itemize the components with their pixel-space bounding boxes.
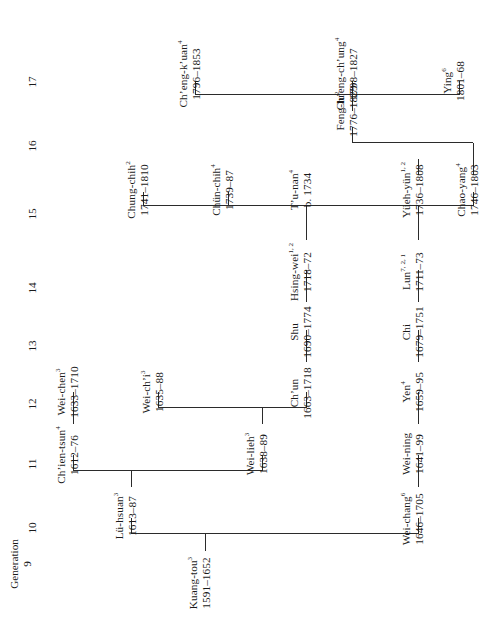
person-name-superscript: 3 (139, 370, 147, 374)
person-name-superscript: 4 (333, 38, 341, 42)
person-node-kuang-tou[interactable]: Kuang-tou3 1591–1652 (187, 550, 212, 616)
person-dates: 1638–89 (257, 424, 270, 484)
generation-number-15: 15 (26, 184, 39, 244)
person-dates: 1612–76 (68, 421, 81, 489)
person-node-wei-ning[interactable]: Wei-ning 1641–99 (400, 424, 425, 484)
person-node-lun[interactable]: Lun7, 2, 1 1711–73 (400, 240, 425, 304)
person-name-superscript: 1, 2 (287, 243, 295, 254)
person-dates: 1739–87 (223, 156, 236, 224)
generation-number-14: 14 (26, 258, 39, 318)
person-dates: 1718–72 (301, 238, 314, 306)
person-name: Chao-yang4 (455, 154, 468, 226)
edge-luhsuan-bus (73, 470, 262, 471)
person-node-chao-yang[interactable]: Chao-yang4 1746–1803 (455, 154, 480, 226)
person-name: T’u-nan4 (288, 158, 301, 222)
person-node-chun-chih[interactable]: Chün-chih4 1739–87 (210, 156, 235, 224)
generation-number-12-label: 12 (26, 374, 39, 434)
person-node-wei-chen[interactable]: Wei-chen3 1633–1710 (55, 358, 80, 426)
person-dates: 1641–99 (413, 424, 426, 484)
person-node-chung-chih[interactable]: Chung-chih2 1741–1810 (125, 154, 150, 226)
person-dates: 1736–1808 (413, 154, 426, 226)
person-dates: 1796–1853 (190, 32, 203, 116)
person-name: Ch’eng-ch’ung4 (334, 30, 347, 118)
person-dates: 1659–95 (413, 362, 426, 422)
person-name: Lü-hsuan3 (113, 486, 126, 546)
person-name-superscript: 7, 2, 1 (399, 254, 407, 272)
person-dates: 1646–1705 (413, 484, 426, 554)
person-name-superscript: 3 (243, 433, 251, 437)
person-node-cheng-chung[interactable]: Ch’eng-ch’ung4 1798–1827 (334, 30, 359, 118)
generation-number-13-label: 13 (26, 316, 39, 376)
person-name: Yen4 (400, 362, 413, 422)
person-name-superscript: 4 (209, 164, 217, 168)
generation-number-15-label: 15 (26, 184, 39, 244)
person-dates: b. 1734 (301, 158, 314, 222)
person-name: Wei-lieh3 (244, 424, 257, 484)
person-name: Hsing-wei1, 2 (288, 238, 301, 306)
person-node-chien-tsun[interactable]: Ch’ien-tsun4 1612–76 (55, 421, 80, 489)
person-node-chun[interactable]: Ch’un 1663–1718 (288, 360, 313, 426)
generation-number-10: 10 (26, 498, 39, 558)
person-node-lu-hsuan[interactable]: Lü-hsuan3 1613–87 (113, 486, 138, 546)
person-name: Chi (400, 300, 413, 364)
generation-number-17-label: 17 (26, 52, 39, 112)
person-name: Ch’eng-k’uan4 (177, 32, 190, 116)
person-dates: 1635–88 (153, 362, 166, 422)
edge-luhsuan-stem (131, 471, 132, 487)
person-node-cheng-kuan[interactable]: Ch’eng-k’uan4 1796–1853 (177, 32, 202, 116)
person-dates: 1801–68 (454, 50, 467, 112)
person-name: Wei-chang6 (400, 484, 413, 554)
person-node-yueh-yun[interactable]: Yüeh-yün1, 2 1736–1808 (400, 154, 425, 226)
person-node-wei-chi[interactable]: Wei-ch’i3 1635–88 (140, 362, 165, 422)
edge-chaoyang-riser (352, 142, 473, 143)
person-name-superscript: 6 (399, 493, 407, 497)
edge-kuangtou-bus (131, 533, 418, 534)
person-dates: 1679–1751 (413, 300, 426, 364)
generation-number-16: 16 (26, 116, 39, 176)
person-name: Ch’un (288, 360, 301, 426)
person-name: Yüeh-yün1, 2 (400, 154, 413, 226)
person-dates: 1741–1810 (138, 154, 151, 226)
person-node-shu[interactable]: Shu 1690–1774 (288, 300, 313, 364)
person-node-wei-lieh[interactable]: Wei-lieh3 1638–89 (244, 424, 269, 484)
edge-weilieh-stem (262, 408, 263, 424)
edge-fenglu-bus (195, 94, 459, 95)
person-name-superscript: 1, 2 (399, 162, 407, 173)
person-name: Lun7, 2, 1 (400, 240, 413, 304)
person-name: Chung-chih2 (125, 154, 138, 226)
generation-header-word: Generation (8, 522, 21, 606)
generation-number-12: 12 (26, 374, 39, 434)
person-dates: 1690–1774 (301, 300, 314, 364)
person-name-superscript: 3 (186, 557, 194, 561)
person-name-superscript: 4 (399, 381, 407, 385)
edge-weilieh-bus (158, 407, 306, 408)
person-name: Shu (288, 300, 301, 364)
person-name-superscript: 4 (54, 426, 62, 430)
person-name-superscript: 4 (454, 163, 462, 167)
person-dates: 1613–87 (126, 486, 139, 546)
person-dates: 1746–1803 (468, 154, 480, 226)
person-node-yen[interactable]: Yen4 1659–95 (400, 362, 425, 422)
person-node-chi[interactable]: Chi 1679–1751 (400, 300, 425, 364)
person-name: Wei-ning (400, 424, 413, 484)
generation-number-10-label: 10 (26, 498, 39, 558)
edge-kuangtou-stem (205, 534, 206, 551)
person-node-tu-nan[interactable]: T’u-nan4 b. 1734 (288, 158, 313, 222)
person-node-ying[interactable]: Ying6 1801–68 (441, 50, 466, 112)
generation-number-13: 13 (26, 316, 39, 376)
generation-number-14-label: 14 (26, 258, 39, 318)
person-dates: 1663–1718 (301, 360, 314, 426)
person-node-wei-chang[interactable]: Wei-chang6 1646–1705 (400, 484, 425, 554)
person-name-superscript: 2 (124, 161, 132, 165)
person-name-superscript: 6 (440, 68, 448, 72)
person-node-hsing-wei[interactable]: Hsing-wei1, 2 1718–72 (288, 238, 313, 306)
person-name-superscript: 3 (112, 493, 120, 497)
person-name: Chün-chih4 (210, 156, 223, 224)
person-dates: 1591–1652 (200, 550, 213, 616)
person-name: Wei-ch’i3 (140, 362, 153, 422)
generation-number-16-label: 16 (26, 116, 39, 176)
person-name-superscript: 3 (54, 369, 62, 373)
person-name: Wei-chen3 (55, 358, 68, 426)
person-name-superscript: 4 (287, 170, 295, 174)
